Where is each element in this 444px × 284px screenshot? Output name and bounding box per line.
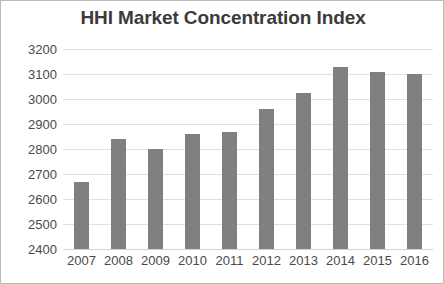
x-tick-label: 2011 <box>216 253 244 268</box>
y-axis: 240025002600270028002900300031003200 <box>9 49 57 249</box>
x-tick-label: 2009 <box>141 253 170 268</box>
y-tick-label: 3200 <box>28 42 57 57</box>
bars-layer <box>63 49 433 249</box>
chart-figure: HHI Market Concentration Index 240025002… <box>0 0 444 284</box>
x-tick-label: 2012 <box>252 253 281 268</box>
bar[interactable] <box>222 132 237 250</box>
bar[interactable] <box>185 134 200 249</box>
y-tick-label: 2400 <box>28 242 57 257</box>
y-tick-label: 2800 <box>28 142 57 157</box>
x-tick-label: 2014 <box>326 253 355 268</box>
x-tick-label: 2013 <box>289 253 318 268</box>
y-tick-label: 3100 <box>28 67 57 82</box>
x-tick-label: 2007 <box>67 253 96 268</box>
y-tick-label: 2500 <box>28 217 57 232</box>
bar[interactable] <box>407 74 422 249</box>
bar[interactable] <box>370 72 385 250</box>
bar[interactable] <box>148 149 163 249</box>
bar[interactable] <box>333 67 348 250</box>
x-tick-label: 2016 <box>400 253 429 268</box>
x-axis: 2007200820092010201120122013201420152016 <box>63 253 433 275</box>
y-tick-label: 2900 <box>28 117 57 132</box>
x-tick-label: 2010 <box>178 253 207 268</box>
bar[interactable] <box>74 182 89 250</box>
bar[interactable] <box>296 93 311 249</box>
bar[interactable] <box>259 109 274 249</box>
x-tick-label: 2008 <box>104 253 133 268</box>
y-tick-label: 3000 <box>28 92 57 107</box>
bar[interactable] <box>111 139 126 249</box>
y-tick-label: 2600 <box>28 192 57 207</box>
chart-title: HHI Market Concentration Index <box>1 7 444 29</box>
y-tick-label: 2700 <box>28 167 57 182</box>
gridline <box>63 249 433 250</box>
x-tick-label: 2015 <box>363 253 392 268</box>
